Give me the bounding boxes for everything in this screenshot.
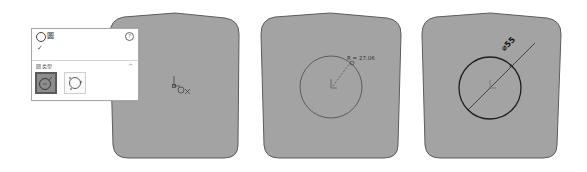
- circle-property-panel: 圆 ? ✓ 圆类型 ^: [31, 28, 139, 101]
- center-circle-icon: [37, 74, 55, 92]
- sketch-view-2[interactable]: [261, 13, 401, 158]
- sketch-plate-3: [422, 13, 561, 158]
- chevron-up-icon[interactable]: ^: [128, 62, 133, 69]
- circle-icon: [36, 32, 46, 42]
- sketch-view-3[interactable]: [422, 13, 561, 158]
- ok-checkmark-icon[interactable]: ✓: [37, 44, 43, 52]
- section-label-circle-type: 圆类型: [36, 63, 53, 70]
- perimeter-circle-icon: [65, 73, 85, 93]
- center-circle-button[interactable]: [35, 72, 57, 94]
- panel-header: 圆 ? ✓: [32, 29, 138, 59]
- panel-title: 圆: [47, 31, 54, 41]
- radius-label: R = 27.06: [347, 55, 375, 62]
- divider: [32, 60, 138, 61]
- perimeter-circle-button[interactable]: [64, 72, 86, 94]
- help-icon[interactable]: ?: [125, 32, 134, 41]
